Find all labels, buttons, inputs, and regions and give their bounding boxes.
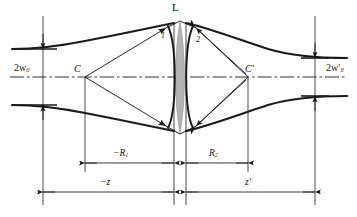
center-left-label: C (74, 63, 81, 74)
waist-left-prefix: 2w (14, 62, 26, 73)
radius-2-subscript: 2 (215, 152, 218, 158)
radius-1-subscript: 1 (125, 152, 128, 158)
waist-left-label: 2w0 (14, 62, 29, 73)
radius-1-main: −R (113, 148, 125, 158)
distance-image-label: z′ (245, 177, 251, 187)
gaussian-beam-lens-diagram: L 1 2 C C′ 2w0 2w′0 −R1 R2 −z z′ (0, 0, 357, 217)
waist-right-prefix: 2w (326, 62, 338, 73)
diagram-canvas (0, 0, 357, 217)
lens-element (176, 22, 185, 133)
waist-right-subscript: 0 (340, 66, 343, 73)
waist-right-label: 2w′0 (326, 62, 344, 73)
wavefront-2-label: 2 (196, 35, 200, 44)
wavefront-1-label: 1 (161, 31, 165, 40)
radius-2-label: R2 (209, 148, 218, 158)
lens-label: L (172, 1, 179, 13)
radius-1-label: −R1 (113, 148, 128, 158)
center-right-label: C′ (245, 63, 254, 74)
waist-left-subscript: 0 (26, 66, 29, 73)
distance-object-label: −z (100, 177, 110, 187)
